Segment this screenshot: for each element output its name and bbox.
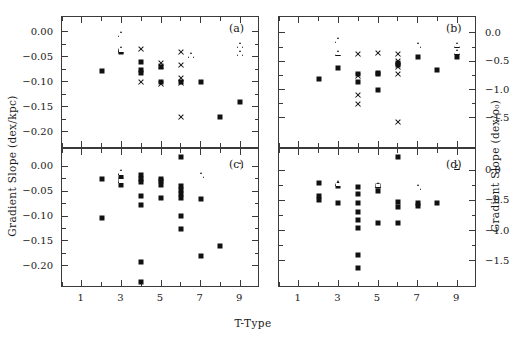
x-tick-top <box>62 17 63 21</box>
data-point-square <box>356 252 361 257</box>
y-tick-left <box>62 31 68 32</box>
data-point-square <box>119 183 124 188</box>
panel-b <box>278 16 476 148</box>
y-tick-label: −1.5 <box>485 111 514 122</box>
x-tick-top <box>457 149 458 155</box>
x-tick-top <box>240 149 241 155</box>
x-tick-label: 7 <box>196 292 202 303</box>
x-tick-top <box>161 17 162 23</box>
data-point-square <box>356 79 361 84</box>
x-tick-bottom <box>121 280 122 286</box>
data-point-cross <box>355 72 362 79</box>
data-point-square <box>139 203 144 208</box>
y-tick-left <box>62 131 68 132</box>
y-minor-right <box>472 185 476 186</box>
y-tick-left <box>62 106 68 107</box>
x-tick-bottom <box>358 143 359 147</box>
plot-area-a <box>62 17 258 147</box>
data-point-square <box>139 180 144 185</box>
y-minor-right <box>472 245 476 246</box>
y-minor-left <box>62 178 66 179</box>
x-tick-bottom <box>180 143 181 147</box>
x-tick-bottom <box>161 280 162 286</box>
x-tick-top <box>81 17 82 23</box>
x-tick-label: 3 <box>334 292 340 303</box>
y-tick-left <box>62 216 68 217</box>
y-tick-left <box>279 117 285 118</box>
x-tick-label: 3 <box>117 292 123 303</box>
x-tick-top <box>121 17 122 23</box>
y-tick-right <box>252 191 258 192</box>
x-tick-bottom <box>358 282 359 286</box>
y-tick-label: −0.15 <box>17 234 53 245</box>
panel-a <box>61 16 259 148</box>
x-tick-top <box>338 17 339 23</box>
data-point-square <box>415 55 420 60</box>
y-tick-right <box>469 200 475 201</box>
data-point-triangle <box>237 42 243 48</box>
data-point-square <box>139 279 144 284</box>
y-tick-label: −0.05 <box>17 50 53 61</box>
data-point-square <box>356 201 361 206</box>
y-tick-right <box>469 32 475 33</box>
y-minor-left <box>62 69 66 70</box>
data-point-triangle <box>415 42 421 48</box>
x-tick-top <box>397 149 398 153</box>
y-tick-label: −0.15 <box>17 100 53 111</box>
y-minor-left <box>62 203 66 204</box>
data-point-square <box>139 71 144 76</box>
x-tick-bottom <box>417 280 418 286</box>
x-tick-bottom <box>457 141 458 147</box>
data-point-cross <box>158 62 165 69</box>
y-tick-right <box>252 106 258 107</box>
y-tick-right <box>252 166 258 167</box>
y-tick-right <box>252 31 258 32</box>
x-tick-top <box>417 149 418 155</box>
y-minor-right <box>255 44 259 45</box>
plot-area-b <box>279 17 475 147</box>
data-point-cross <box>355 100 362 107</box>
y-tick-label: −0.10 <box>17 210 53 221</box>
x-axis-label: T-Type <box>0 317 506 329</box>
x-tick-bottom <box>81 141 82 147</box>
y-tick-right <box>469 260 475 261</box>
data-point-square <box>415 204 420 209</box>
x-tick-label: 1 <box>295 292 301 303</box>
y-tick-left <box>279 89 285 90</box>
x-tick-bottom <box>338 280 339 286</box>
x-tick-bottom <box>180 282 181 286</box>
data-point-square <box>356 225 361 230</box>
y-tick-left <box>279 260 285 261</box>
data-point-square <box>356 210 361 215</box>
y-tick-label: −1.0 <box>485 83 514 94</box>
y-minor-left <box>279 75 283 76</box>
y-tick-right <box>469 230 475 231</box>
data-point-square <box>395 205 400 210</box>
x-tick-bottom <box>220 282 221 286</box>
x-tick-top <box>298 17 299 23</box>
y-tick-label: −0.5 <box>485 55 514 66</box>
data-point-square <box>159 196 164 201</box>
y-minor-right <box>472 47 476 48</box>
data-point-square <box>336 201 341 206</box>
x-tick-bottom <box>378 280 379 286</box>
x-tick-bottom <box>141 143 142 147</box>
x-tick-top <box>437 149 438 153</box>
y-tick-label: −0.10 <box>17 75 53 86</box>
data-point-square <box>218 114 223 119</box>
x-tick-bottom <box>397 282 398 286</box>
x-tick-top <box>220 17 221 21</box>
panel-label-b: (b) <box>446 22 462 35</box>
y-minor-left <box>279 215 283 216</box>
x-tick-bottom <box>161 141 162 147</box>
data-point-square <box>395 221 400 226</box>
data-point-triangle <box>415 184 421 190</box>
x-tick-top <box>200 17 201 23</box>
y-minor-right <box>472 215 476 216</box>
data-point-square <box>99 176 104 181</box>
data-point-square <box>198 79 203 84</box>
y-tick-label: −1.0 <box>485 224 514 235</box>
x-tick-top <box>437 17 438 21</box>
y-tick-right <box>469 117 475 118</box>
data-point-square <box>356 217 361 222</box>
